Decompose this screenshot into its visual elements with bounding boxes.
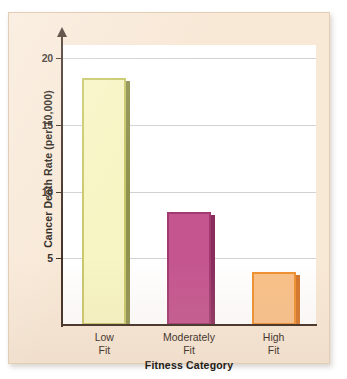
gridline <box>62 58 316 59</box>
y-tick-mark <box>56 125 62 126</box>
y-tick-mark <box>56 192 62 193</box>
x-axis-label: HighFit <box>231 331 316 356</box>
y-axis-title: Cancer Death Rate (per 10,000) <box>42 54 54 284</box>
bar-face <box>252 272 296 325</box>
y-axis-line <box>61 35 63 327</box>
figure-page-card: 5101520 LowFitModeratelyFitHighFit Fitne… <box>8 12 330 364</box>
x-axis-label-line: Low <box>62 331 147 344</box>
x-axis-label-line: Fit <box>231 344 316 357</box>
y-tick-mark <box>56 58 62 59</box>
x-axis-label: LowFit <box>62 331 147 356</box>
bar <box>82 78 126 325</box>
x-axis-label-line: Fit <box>62 344 147 357</box>
bar-side-shadow <box>126 81 130 325</box>
bar <box>252 272 296 325</box>
bar-face <box>167 212 211 325</box>
x-axis-label-line: Moderately <box>147 331 232 344</box>
x-axis-title: Fitness Category <box>62 359 316 371</box>
x-axis-line <box>61 324 317 326</box>
y-axis-arrow-icon <box>57 27 67 37</box>
bar <box>167 212 211 325</box>
x-axis-label: ModeratelyFit <box>147 331 232 356</box>
bar-face <box>82 78 126 325</box>
chart-figure: 5101520 LowFitModeratelyFitHighFit Fitne… <box>0 0 347 379</box>
bar-side-shadow <box>296 275 300 325</box>
x-axis-label-line: High <box>231 331 316 344</box>
y-tick-mark <box>56 258 62 259</box>
bar-side-shadow <box>211 215 215 325</box>
plot-area <box>62 45 316 325</box>
x-axis-label-line: Fit <box>147 344 232 357</box>
